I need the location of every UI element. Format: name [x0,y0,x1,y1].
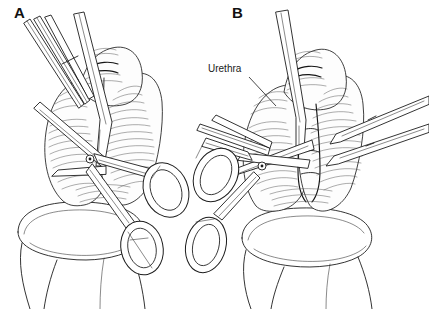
panel-letter-b: B [232,5,243,20]
urethra-label: Urethra [208,63,241,75]
penis-shaft-b [242,208,372,309]
panel-letter-a: A [14,5,25,20]
panel-b-artwork [0,0,429,309]
figure-root: A B Urethra [0,0,429,309]
panel-b-group [180,10,429,309]
scissors-b [180,138,314,277]
